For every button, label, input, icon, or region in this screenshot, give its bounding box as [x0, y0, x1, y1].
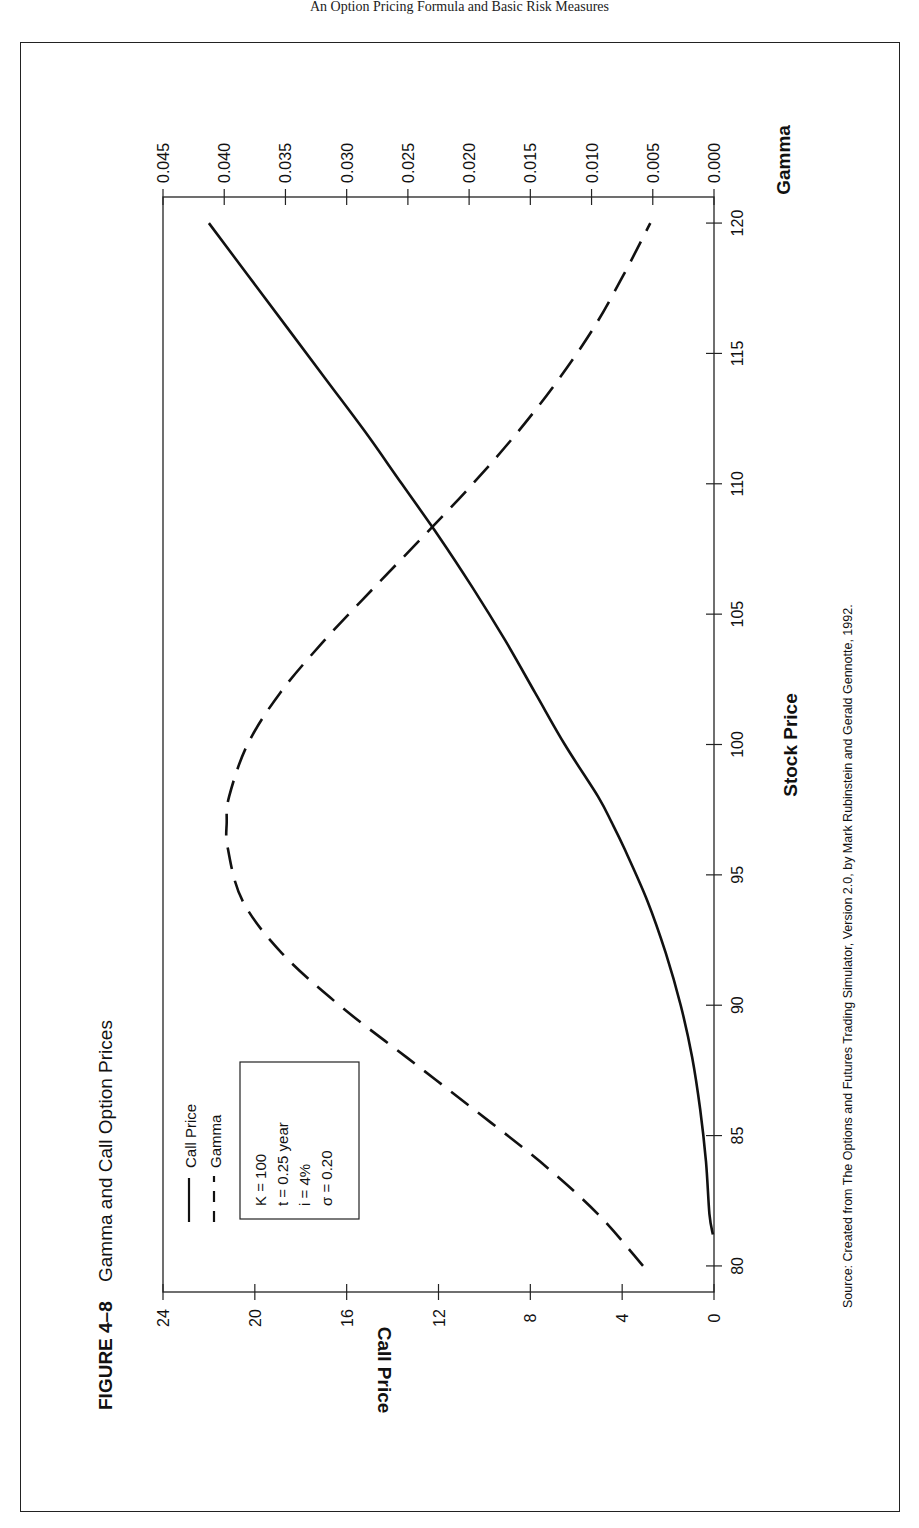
x-tick-label: 85 — [729, 1127, 746, 1145]
legend: Call Price Gamma — [182, 1104, 224, 1222]
x-tick-label: 100 — [729, 731, 746, 758]
right-tick-label: 0.000 — [706, 143, 723, 183]
left-tick-label: 4 — [614, 1313, 631, 1322]
right-tick-label: 0.015 — [522, 143, 539, 183]
x-tick-label: 105 — [729, 601, 746, 628]
x-tick-label: 120 — [729, 210, 746, 237]
left-tick-label: 12 — [431, 1309, 448, 1327]
param-t: t = 0.25 year — [274, 1122, 291, 1206]
x-tick-label: 110 — [729, 471, 746, 497]
right-tick-label: 0.005 — [645, 143, 662, 183]
right-axis-label: Gamma — [773, 125, 794, 195]
right-tick-label: 0.045 — [155, 143, 172, 183]
chart: 80859095100105110115120 04812162024 0.00… — [0, 0, 919, 1528]
stock-price-axis-ticks: 80859095100105110115120 — [706, 210, 746, 1275]
left-tick-label: 24 — [155, 1309, 172, 1327]
right-tick-label: 0.010 — [584, 143, 601, 183]
param-i: i = 4% — [296, 1164, 313, 1206]
gamma-axis-ticks: 0.0000.0050.0100.0150.0200.0250.0300.035… — [155, 143, 723, 205]
source-note: Source: Created from The Options and Fut… — [841, 604, 855, 1308]
param-sigma: σ = 0.20 — [318, 1150, 335, 1206]
params-box: K = 100 t = 0.25 year i = 4% σ = 0.20 — [240, 1062, 359, 1219]
left-axis-label: Call Price — [374, 1327, 395, 1414]
right-tick-label: 0.040 — [216, 143, 233, 183]
right-tick-label: 0.025 — [400, 143, 417, 183]
param-k: K = 100 — [252, 1154, 269, 1206]
x-tick-label: 80 — [729, 1257, 746, 1275]
figure-title: Gamma and Call Option Prices — [95, 1020, 116, 1282]
left-tick-label: 20 — [247, 1309, 264, 1327]
right-tick-label: 0.030 — [339, 143, 356, 183]
left-tick-label: 0 — [706, 1313, 723, 1322]
x-tick-label: 95 — [729, 866, 746, 884]
figure-label: FIGURE 4–8 — [95, 1301, 116, 1410]
right-tick-label: 0.020 — [461, 143, 478, 183]
call-price-axis-ticks: 04812162024 — [155, 1284, 723, 1327]
x-tick-label: 115 — [729, 341, 746, 367]
left-tick-label: 8 — [522, 1313, 539, 1322]
x-tick-label: 90 — [729, 996, 746, 1014]
legend-label-gamma: Gamma — [207, 1114, 224, 1168]
left-tick-label: 16 — [339, 1309, 356, 1327]
legend-label-call-price: Call Price — [182, 1104, 199, 1168]
x-axis-label: Stock Price — [780, 693, 801, 797]
right-tick-label: 0.035 — [277, 143, 294, 183]
